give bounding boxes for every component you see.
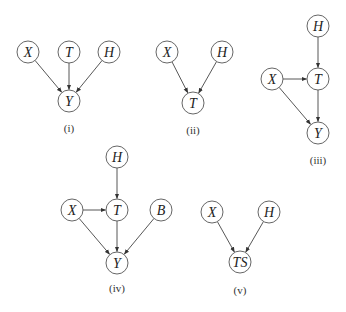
node-h: H <box>258 201 280 223</box>
node-label: B <box>157 203 166 218</box>
node-y: Y <box>58 90 80 112</box>
panel-i: XTHY(i) <box>17 41 120 135</box>
node-h: H <box>106 146 128 168</box>
panel-iii: HXTY(iii) <box>261 15 329 167</box>
panel-caption: (i) <box>64 122 75 135</box>
node-h: H <box>98 41 120 63</box>
edge-h-to-ts <box>246 222 264 253</box>
node-x: X <box>156 41 178 63</box>
edge-x-to-y <box>79 218 109 254</box>
panel-v: XHTS(v) <box>201 201 280 297</box>
node-x: X <box>201 201 223 223</box>
node-y: Y <box>307 122 329 144</box>
node-label: X <box>207 205 217 220</box>
node-label: H <box>263 205 275 220</box>
panel-caption: (ii) <box>186 124 200 137</box>
node-label: H <box>103 45 115 60</box>
edge-x-to-ts <box>217 222 234 252</box>
edge-b-to-y <box>124 218 154 254</box>
node-label: X <box>267 72 277 87</box>
node-t: T <box>307 68 329 90</box>
node-x: X <box>17 41 39 63</box>
edge-h-to-t <box>199 62 217 93</box>
panel-iv: HXTBY(iv) <box>61 146 172 295</box>
edge-x-to-t <box>172 62 188 93</box>
node-y: Y <box>106 252 128 274</box>
panel-ii: XHT(ii) <box>156 41 233 137</box>
node-h: H <box>307 15 329 37</box>
node-h: H <box>211 41 233 63</box>
node-label: X <box>23 45 33 60</box>
node-label: H <box>216 45 228 60</box>
node-b: B <box>150 199 172 221</box>
node-label: X <box>162 45 172 60</box>
panel-caption: (iv) <box>109 282 125 295</box>
node-label: TS <box>233 255 248 270</box>
node-x: X <box>61 199 83 221</box>
node-label: X <box>67 203 77 218</box>
node-label: T <box>113 203 122 218</box>
panel-caption: (v) <box>234 284 247 297</box>
node-label: T <box>189 96 198 111</box>
edge-x-to-y <box>279 87 310 124</box>
causal-diagrams-figure: XTHY(i)XHT(ii)HXTY(iii)HXTBY(iv)XHTS(v) <box>0 0 346 312</box>
diagram-panels: XTHY(i)XHT(ii)HXTY(iii)HXTBY(iv)XHTS(v) <box>17 15 329 297</box>
node-t: T <box>106 199 128 221</box>
node-ts: TS <box>229 251 251 273</box>
node-label: T <box>65 45 74 60</box>
node-label: T <box>314 72 323 87</box>
node-x: X <box>261 68 283 90</box>
edge-h-to-y <box>76 61 102 93</box>
node-t: T <box>182 92 204 114</box>
node-label: H <box>111 150 123 165</box>
node-label: H <box>312 19 324 34</box>
node-t: T <box>58 41 80 63</box>
edge-x-to-y <box>35 60 62 92</box>
panel-caption: (iii) <box>310 154 327 167</box>
